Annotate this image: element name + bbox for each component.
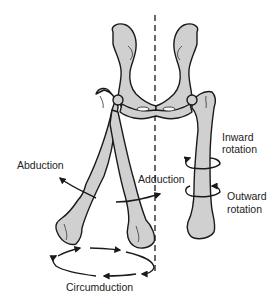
obturator-right — [163, 107, 175, 111]
femur-right — [187, 92, 215, 239]
label-outward-rotation-line1: Outward — [227, 190, 267, 202]
circumduction-arrow-top-left — [58, 248, 80, 256]
circumduction-arrow-top-right — [90, 248, 120, 250]
label-abduction: Abduction — [17, 159, 64, 171]
circumduction-arrow-left — [53, 256, 96, 276]
label-circumduction: Circumduction — [66, 281, 133, 293]
label-adduction: Adduction — [138, 173, 185, 185]
femur-left-abducted — [56, 88, 118, 244]
circumduction-arrow-right — [126, 252, 154, 274]
label-inward-rotation-line1: Inward — [222, 131, 254, 143]
obturator-left — [137, 107, 149, 111]
circumduction-arrow-bottom — [104, 274, 136, 276]
femoral-head-right — [187, 95, 197, 105]
label-inward-rotation-line2: rotation — [222, 143, 257, 155]
label-outward-rotation-line2: rotation — [227, 203, 262, 215]
femoral-head-left — [113, 95, 123, 105]
